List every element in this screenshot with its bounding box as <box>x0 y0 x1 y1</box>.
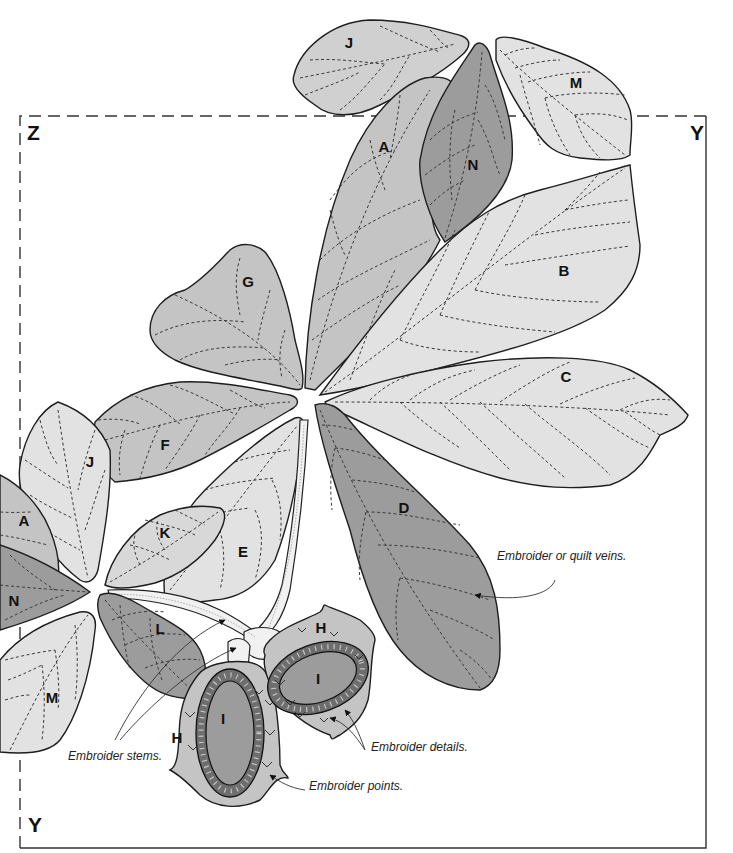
annotation-veins: Embroider or quilt veins. <box>475 549 626 598</box>
piece-label-m-bottom: M <box>46 689 59 706</box>
piece-label-l: L <box>155 620 164 637</box>
piece-label-d: D <box>399 499 410 516</box>
annotation-points-text: Embroider points. <box>309 779 403 793</box>
piece-label-j-left: J <box>86 453 94 470</box>
piece-label-c: C <box>561 368 572 385</box>
annotation-veins-text: Embroider or quilt veins. <box>497 549 626 563</box>
piece-label-j-top: J <box>345 34 353 51</box>
piece-label-n-top: N <box>468 156 479 173</box>
corner-label-top-right: Y <box>690 121 704 144</box>
piece-label-a-left: A <box>19 512 30 529</box>
piece-label-e: E <box>238 543 248 560</box>
piece-label-h-left: H <box>172 729 183 746</box>
annotation-details-text: Embroider details. <box>371 740 468 754</box>
piece-label-i-left: I <box>221 710 225 727</box>
corner-label-bottom-left: Y <box>28 813 42 836</box>
leaf-g: G <box>150 245 303 390</box>
piece-label-a-top: A <box>379 138 390 155</box>
leaf-m-top: M <box>496 37 632 160</box>
piece-label-f: F <box>160 436 169 453</box>
applique-pattern-diagram: Z Y Y J M A <box>0 0 733 853</box>
leaf-m-bottom: M <box>0 612 95 753</box>
piece-label-n-left: N <box>9 592 20 609</box>
annotation-stems-text: Embroider stems. <box>68 749 162 763</box>
corner-label-top-left: Z <box>27 121 40 144</box>
annotation-points: Embroider points. <box>270 775 403 793</box>
piece-label-h-right: H <box>316 619 327 636</box>
piece-label-m-top: M <box>570 74 583 91</box>
piece-label-k: K <box>160 524 171 541</box>
piece-label-b: B <box>559 262 570 279</box>
piece-label-i-right: I <box>316 670 320 687</box>
piece-label-g: G <box>242 273 254 290</box>
